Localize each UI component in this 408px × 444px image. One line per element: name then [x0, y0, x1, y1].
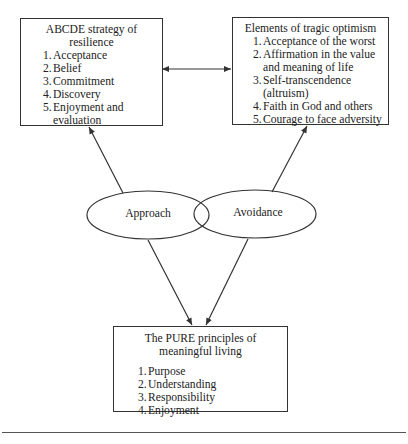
list-item: 1.Purpose [138, 365, 283, 378]
list-item: 5.Courage to face adversity [253, 113, 384, 126]
list-item: 1.Acceptance of the worst [253, 35, 384, 48]
box-title: Elements of tragic optimism [237, 22, 384, 35]
pure-principles-box: The PURE principles of meaningful living… [113, 326, 288, 412]
approach-label: Approach [108, 207, 188, 220]
arrow-approach-to-resilience [89, 127, 123, 193]
horizontal-divider [2, 432, 406, 433]
list-item: 4.Enjoyment [138, 404, 283, 417]
list-item: 1.Acceptance [43, 49, 156, 62]
resilience-list: 1.Acceptance 2.Belief 3.Commitment 4.Dis… [43, 49, 156, 127]
pure-principles-list: 1.Purpose 2.Understanding 3.Responsibili… [138, 365, 283, 417]
list-item: 5.Enjoyment and evaluation [43, 101, 156, 127]
list-item: 2.Affirmation in the value and meaning o… [253, 48, 384, 74]
arrow-avoidance-to-pure [206, 239, 248, 325]
avoidance-label: Avoidance [218, 206, 298, 219]
tragic-optimism-box: Elements of tragic optimism 1.Acceptance… [232, 17, 389, 125]
list-item: 2.Understanding [138, 378, 283, 391]
list-item: 3.Responsibility [138, 391, 283, 404]
arrow-avoidance-to-tragic-optimism [272, 126, 307, 192]
list-item: 2.Belief [43, 62, 156, 75]
list-item: 3.Commitment [43, 75, 156, 88]
list-item: 3.Self-transcendence (altruism) [253, 74, 384, 100]
list-item: 4.Discovery [43, 88, 156, 101]
box-title: ABCDE strategy of resilience [27, 23, 156, 49]
resilience-strategy-box: ABCDE strategy of resilience 1.Acceptanc… [20, 18, 163, 126]
box-title: The PURE principles of meaningful living [118, 332, 283, 358]
tragic-optimism-list: 1.Acceptance of the worst 2.Affirmation … [253, 35, 384, 126]
list-item: 4.Faith in God and others [253, 100, 384, 113]
arrow-approach-to-pure [148, 240, 192, 325]
